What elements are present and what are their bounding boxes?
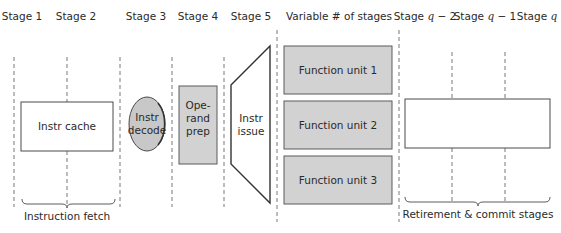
instruction-fetch-brace bbox=[22, 199, 115, 208]
function-unit-1-label: Function unit 1 bbox=[299, 64, 377, 76]
retirement-box bbox=[405, 99, 550, 148]
stage-header-q-minus-1: Stage q − 1 bbox=[454, 10, 517, 22]
stage-header-q-minus-2: Stage q − 2 bbox=[394, 10, 457, 22]
operand-prep-label-1: Ope- bbox=[185, 99, 210, 111]
instruction-fetch-label: Instruction fetch bbox=[24, 210, 110, 222]
stage-header-variable: Variable # of stages bbox=[286, 10, 392, 22]
instr-decode-block: Instr decode bbox=[128, 97, 166, 151]
stage-header-5: Stage 5 bbox=[231, 10, 271, 22]
instr-issue-label-2: issue bbox=[238, 125, 265, 137]
retirement-label: Retirement & commit stages bbox=[403, 208, 554, 220]
instr-issue-label-1: Instr bbox=[239, 112, 263, 124]
instr-issue-block: Instr issue bbox=[231, 46, 270, 203]
stage-header-q: Stage q bbox=[517, 10, 558, 22]
retirement-brace bbox=[405, 197, 550, 206]
instr-cache-block: Instr cache bbox=[21, 102, 113, 151]
stage-header-2: Stage 2 bbox=[56, 10, 96, 22]
pipeline-diagram: Stage 1 Stage 2 Stage 3 Stage 4 Stage 5 … bbox=[0, 0, 561, 233]
stage-header-1: Stage 1 bbox=[2, 10, 42, 22]
instr-decode-label-1: Instr bbox=[135, 111, 159, 123]
function-unit-2-label: Function unit 2 bbox=[299, 119, 377, 131]
instr-decode-label-2: decode bbox=[128, 124, 166, 136]
operand-prep-label-2: rand bbox=[186, 112, 210, 124]
operand-prep-block: Ope- rand prep bbox=[179, 86, 217, 164]
stage-header-4: Stage 4 bbox=[178, 10, 219, 22]
operand-prep-label-3: prep bbox=[186, 125, 210, 137]
stage-headers: Stage 1 Stage 2 Stage 3 Stage 4 Stage 5 … bbox=[2, 10, 558, 22]
function-units: Function unit 1 Function unit 2 Function… bbox=[284, 46, 392, 204]
instr-cache-label: Instr cache bbox=[38, 120, 96, 132]
stage-header-3: Stage 3 bbox=[126, 10, 166, 22]
function-unit-3-label: Function unit 3 bbox=[299, 174, 377, 186]
